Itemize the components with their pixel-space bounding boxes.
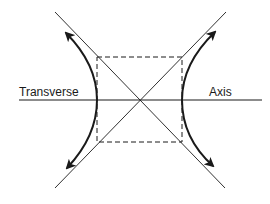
- axis-label: Axis: [209, 86, 232, 98]
- hyperbola-diagram: [0, 0, 270, 204]
- transverse-label: Transverse: [19, 86, 79, 98]
- left-branch-lower: [67, 100, 97, 168]
- right-branch-lower: [182, 100, 213, 166]
